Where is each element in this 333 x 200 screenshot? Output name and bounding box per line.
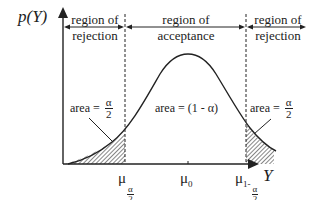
- center-region-label: region of acceptance: [128, 13, 244, 42]
- y-axis-label: p(Y): [18, 7, 47, 27]
- left-region-line1: region of: [66, 13, 124, 26]
- center-area-label: area = (1 - α): [155, 101, 218, 116]
- right-rejection-area: [246, 124, 274, 164]
- right-region-line1: region of: [249, 13, 307, 26]
- mu-alpha-half-label: μ α 2: [118, 170, 134, 200]
- right-area-label: area = α 2: [250, 97, 293, 120]
- left-area-fraction: α 2: [105, 97, 113, 120]
- left-area-pointer: [89, 118, 112, 141]
- left-region-label: region of rejection: [66, 13, 124, 42]
- mu-one-minus-alpha-half-label: μ1- α 2: [235, 170, 258, 200]
- left-area-prefix: area =: [70, 101, 100, 115]
- right-area-fraction: α 2: [285, 97, 293, 120]
- center-region-line2: acceptance: [128, 29, 244, 42]
- left-area-label: area = α 2: [70, 97, 113, 120]
- mu0-label: μ0: [180, 170, 193, 189]
- center-region-line1: region of: [128, 13, 244, 26]
- right-area-pointer: [254, 119, 271, 134]
- right-region-line2: rejection: [249, 29, 307, 42]
- left-rejection-area: [65, 133, 125, 164]
- left-region-line2: rejection: [66, 29, 124, 42]
- right-region-label: region of rejection: [249, 13, 307, 42]
- right-area-prefix: area =: [250, 101, 280, 115]
- x-axis-label: Y: [263, 166, 272, 186]
